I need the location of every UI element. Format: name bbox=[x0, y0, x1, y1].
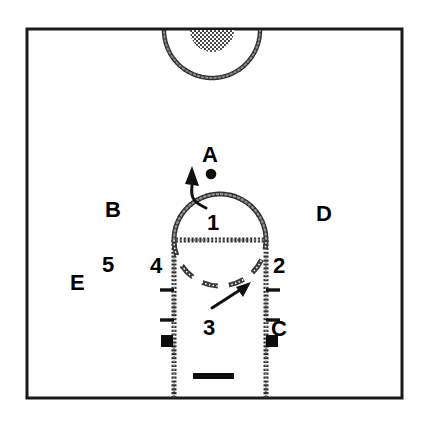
ball-dot bbox=[206, 169, 217, 180]
label-D: D bbox=[316, 203, 332, 225]
label-4: 4 bbox=[150, 255, 162, 277]
lane-block-left bbox=[161, 335, 173, 347]
label-E: E bbox=[70, 272, 85, 294]
label-2: 2 bbox=[273, 255, 285, 277]
label-1: 1 bbox=[207, 212, 219, 234]
label-3: 3 bbox=[203, 317, 215, 339]
court-diagram: A B C D E 1 2 3 4 5 bbox=[0, 0, 423, 421]
label-5: 5 bbox=[102, 254, 114, 276]
label-A: A bbox=[202, 144, 218, 166]
backboard bbox=[193, 373, 234, 379]
label-C: C bbox=[271, 318, 287, 340]
label-B: B bbox=[105, 199, 121, 221]
